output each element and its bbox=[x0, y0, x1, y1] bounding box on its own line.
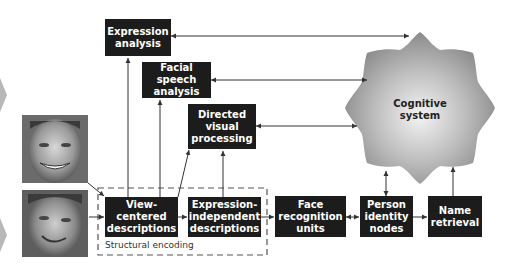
cognitive-system-label: Cognitive system bbox=[385, 98, 455, 122]
facial-speech-analysis-box: Facial speech analysis bbox=[142, 62, 211, 98]
expression-independent-descriptions-box: Expression- independent descriptions bbox=[188, 197, 261, 237]
view-centered-descriptions-box: View-centered descriptions bbox=[105, 197, 178, 237]
directed-visual-processing-box: Directed visual processing bbox=[188, 104, 256, 149]
face-recognition-units-box: Face recognition units bbox=[275, 196, 346, 237]
person-identity-nodes-box: Person identity nodes bbox=[360, 196, 413, 237]
structural-encoding-label: Structural encoding bbox=[105, 240, 194, 250]
expression-analysis-box: Expression analysis bbox=[105, 19, 171, 56]
name-retrieval-box: Name retrieval bbox=[428, 196, 482, 237]
